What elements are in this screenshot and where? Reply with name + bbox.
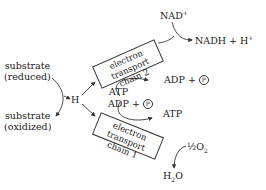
nadh-sup: + <box>248 34 253 41</box>
adp-center-text: ADP + <box>108 98 143 109</box>
half-o2-label: ½O2 <box>187 141 208 152</box>
phosphate-icon: P <box>143 99 153 109</box>
electron-transport-diagram: substrate (reduced) substrate (oxidized)… <box>0 0 266 190</box>
adp-phosphate-right-label: ADP + P <box>164 74 209 85</box>
substrate-oxidized-label: substrate (oxidized) <box>4 110 51 132</box>
substrate-oxidized-line2: (oxidized) <box>4 121 51 132</box>
water-o: O <box>175 170 183 181</box>
adp-phosphate-center-label: ADP + P <box>108 98 153 109</box>
nad-text: NAD <box>160 10 183 21</box>
nad-sup: + <box>183 9 188 16</box>
substrate-reduced-label: substrate (reduced) <box>4 60 51 82</box>
nad-plus-label: NAD+ <box>160 10 188 21</box>
water-label: H2O <box>163 170 183 181</box>
phosphate-icon: P <box>199 75 209 85</box>
atp-center-label: ATP <box>109 86 128 97</box>
substrate-oxidized-line1: substrate <box>5 110 50 121</box>
hydrogen-label: H <box>71 94 79 105</box>
o2-sub: 2 <box>204 147 208 154</box>
nadh-label: NADH + H+ <box>195 35 253 46</box>
atp-right-label: ATP <box>163 108 182 119</box>
half-o2-text: ½O <box>187 141 204 152</box>
nadh-text: NADH + H <box>195 35 248 46</box>
substrate-reduced-line1: substrate <box>5 60 50 71</box>
substrate-reduced-line2: (reduced) <box>4 71 51 82</box>
adp-right-text: ADP + <box>164 74 199 85</box>
diagram-arrows <box>0 0 266 190</box>
